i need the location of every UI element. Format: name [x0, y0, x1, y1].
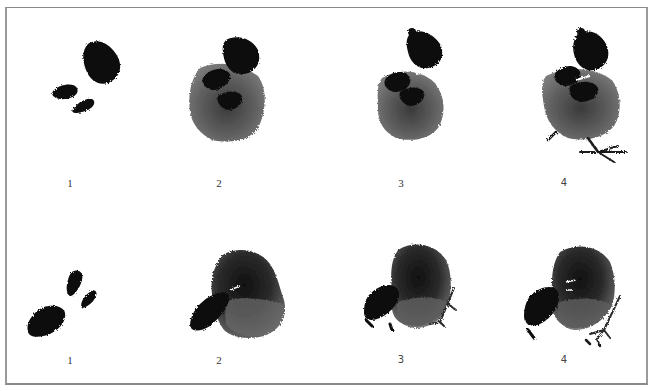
bottom-step-4-illustration [0, 0, 653, 391]
bottom-step-4-label: 4 [554, 354, 574, 365]
